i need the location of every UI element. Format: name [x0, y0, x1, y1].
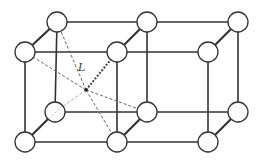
lattice-diagram: L	[0, 0, 261, 163]
atom-back-bottom-left	[45, 102, 65, 122]
atom-front-top-middle	[107, 42, 127, 62]
atom-back-bottom-right	[228, 102, 248, 122]
interstitial-point	[84, 88, 88, 92]
diagram-label-L: L	[77, 61, 85, 74]
atom-front-bottom-left	[15, 132, 35, 152]
atom-back-bottom-middle	[137, 102, 157, 122]
atom-back-top-right	[228, 12, 248, 32]
atom-back-top-middle	[137, 12, 157, 32]
atom-front-bottom-middle	[107, 132, 127, 152]
atom-back-top-left	[47, 12, 67, 32]
solid-edges	[25, 22, 238, 142]
atom-front-top-right	[198, 42, 218, 62]
atom-front-top-left	[15, 42, 35, 62]
atom-front-bottom-right	[198, 132, 218, 152]
atoms	[15, 12, 248, 152]
